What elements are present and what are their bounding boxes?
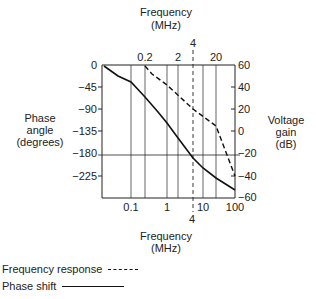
dashed-line-swatch-icon bbox=[108, 269, 138, 270]
right-axis-label-2: gain bbox=[276, 126, 297, 138]
right-tick-5: −40 bbox=[238, 170, 257, 182]
top-tick-0: 0.2 bbox=[137, 51, 152, 63]
top-axis-label-2: (MHz) bbox=[151, 19, 181, 31]
right-axis-label-3: (dB) bbox=[276, 138, 297, 150]
left-tick-4: −180 bbox=[72, 147, 97, 159]
legend-phase-shift: Phase shift bbox=[2, 280, 124, 292]
right-tick-1: 40 bbox=[238, 81, 250, 93]
bode-chart: Frequency (MHz) 4 0.2 2 20 0 −45 bbox=[0, 0, 316, 299]
bottom-tick-0: 0.1 bbox=[123, 201, 138, 213]
top-tick-2: 20 bbox=[210, 51, 222, 63]
left-tick-0: 0 bbox=[91, 59, 97, 71]
left-tick-1: −45 bbox=[78, 81, 97, 93]
left-tick-2: −90 bbox=[78, 103, 97, 115]
right-tick-3: 0 bbox=[238, 125, 244, 137]
legend-label-phase-shift: Phase shift bbox=[2, 280, 56, 292]
legend-frequency-response: Frequency response bbox=[2, 263, 138, 275]
top-axis-label-1: Frequency bbox=[140, 6, 192, 18]
bottom-tick-1: 1 bbox=[164, 201, 170, 213]
plot-area bbox=[98, 50, 240, 212]
frequency-response-line bbox=[145, 66, 235, 176]
left-tick-5: −225 bbox=[72, 170, 97, 182]
bottom-axis-label-1: Frequency bbox=[140, 230, 192, 242]
right-axis-label-1: Voltage bbox=[268, 114, 305, 126]
left-axis-label-1: Phase bbox=[24, 112, 55, 124]
bottom-tick-2: 10 bbox=[197, 201, 209, 213]
right-tick-4: −20 bbox=[238, 147, 257, 159]
phase-shift-line bbox=[104, 66, 235, 190]
left-axis-label-2: angle bbox=[27, 124, 54, 136]
right-tick-2: 20 bbox=[238, 103, 250, 115]
top-tick-1: 2 bbox=[175, 51, 181, 63]
right-tick-0: 60 bbox=[238, 59, 250, 71]
left-tick-3: −135 bbox=[72, 125, 97, 137]
bottom-axis-label-2: (MHz) bbox=[151, 242, 181, 254]
solid-line-swatch-icon bbox=[62, 286, 124, 287]
bottom-marker-label: 4 bbox=[189, 213, 195, 225]
top-marker-label: 4 bbox=[190, 37, 196, 49]
legend-label-frequency-response: Frequency response bbox=[2, 263, 102, 275]
bottom-tick-3: 100 bbox=[226, 201, 244, 213]
left-axis-label-3: (degrees) bbox=[16, 136, 63, 148]
